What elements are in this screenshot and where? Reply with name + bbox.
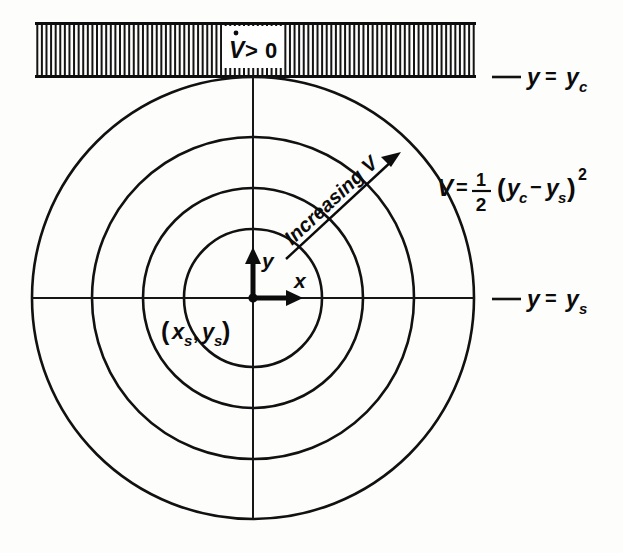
equation-fraction-one-half: 1 2 xyxy=(472,170,491,215)
lyapunov-level-set-diagram: V > 0 y = y c y = y s V = xyxy=(0,0,623,553)
equation-term1-subscript: c xyxy=(519,189,528,206)
yc-label-lhs: y xyxy=(526,64,541,90)
band-label-value: 0 xyxy=(265,38,277,63)
fraction-numerator: 1 xyxy=(476,170,486,190)
ys-label-lhs: y xyxy=(526,286,541,312)
yc-label-rhs-subscript: c xyxy=(579,78,588,95)
center-label-close-paren: ) xyxy=(222,317,230,345)
equation-exponent: 2 xyxy=(578,166,587,183)
ys-label-rhs: y xyxy=(565,286,580,312)
equation-term2-subscript: s xyxy=(558,189,566,206)
equation-open-paren: ( xyxy=(497,173,506,203)
y-axis-arrowhead-icon xyxy=(245,247,261,264)
center-label-x-subscript: s xyxy=(184,332,192,349)
ys-label-rhs-subscript: s xyxy=(579,300,587,317)
equation-minus: − xyxy=(530,176,542,198)
yc-label-rhs: y xyxy=(565,64,580,90)
x-axis-arrowhead-icon xyxy=(286,290,303,306)
center-label-comma: , xyxy=(193,322,199,344)
center-label-x: x xyxy=(171,319,185,344)
equation-close-paren: ) xyxy=(567,173,576,203)
equation-equals: = xyxy=(456,176,468,198)
hatched-constraint-band: V > 0 xyxy=(35,23,476,77)
ys-label-equals: = xyxy=(545,287,557,309)
local-coordinate-axes: x y xyxy=(245,247,307,306)
yc-label-equals: = xyxy=(545,65,557,87)
figure-root: V > 0 y = y c y = y s V = xyxy=(0,0,623,553)
fraction-denominator: 2 xyxy=(476,194,487,215)
x-axis-label: x xyxy=(293,269,307,292)
center-label-open-paren: ( xyxy=(161,317,170,345)
lyapunov-equation: V = 1 2 ( y c − y s ) 2 xyxy=(437,166,587,215)
band-label-relation: > xyxy=(245,38,258,63)
label-y-equals-yc: y = y c xyxy=(492,64,588,95)
origin-dot-icon xyxy=(248,293,257,302)
label-y-equals-ys: y = y s xyxy=(492,286,587,317)
v-dot-accent-icon xyxy=(234,31,239,36)
increasing-v-arrow-shaft xyxy=(286,160,393,259)
y-axis-label: y xyxy=(261,249,275,272)
increasing-v-label: Increasing V xyxy=(280,151,383,249)
center-point-label: ( x s , y s ) xyxy=(161,317,230,349)
increasing-v-arrowhead-icon xyxy=(381,152,401,167)
band-label-v: V xyxy=(229,37,246,63)
